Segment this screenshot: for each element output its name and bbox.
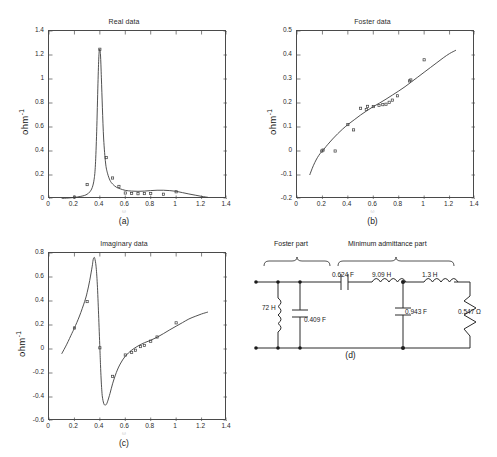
- y-tick-label: 0.4: [18, 146, 44, 153]
- y-tick-label: 0.6: [18, 122, 44, 129]
- y-tick-label: 1.2: [18, 50, 44, 57]
- y-tick-label: 0: [266, 146, 292, 153]
- plot-title-imaginary: Imaginary data: [0, 240, 248, 247]
- axes-foster: [296, 30, 474, 198]
- plot-area-imaginary: [49, 253, 227, 421]
- x-tick-label: 1.2: [189, 422, 213, 429]
- y-tick-label: -0.2: [18, 368, 44, 375]
- y-tick-label: 0.2: [266, 98, 292, 105]
- x-tick-label: 0.4: [87, 200, 111, 207]
- x-tick-label: 1.4: [462, 200, 486, 207]
- x-axis-label-real: ω: [0, 208, 248, 214]
- y-tick-label: 0.3: [266, 74, 292, 81]
- x-tick-label: 0.4: [335, 200, 359, 207]
- plot-title-foster: Foster data: [248, 18, 497, 25]
- x-tick-label: 1.4: [214, 200, 238, 207]
- panel-real-data: Real data ohm-1 00.20.40.60.811.21.4 00.…: [0, 10, 248, 225]
- inductor-72h-symbol: [278, 298, 281, 332]
- inductor-13h-symbol: [424, 279, 458, 283]
- y-tick-label: 0.8: [18, 98, 44, 105]
- y-tick-label: -0.1: [266, 170, 292, 177]
- panel-imaginary-data: Imaginary data ohm-1 -0.6-0.4-0.200.20.4…: [0, 232, 248, 447]
- x-axis-label-foster: ω: [248, 208, 497, 214]
- y-axis-label-exponent: -1: [266, 109, 273, 116]
- terminal-top: [254, 280, 258, 284]
- x-tick-label: 0: [36, 422, 60, 429]
- y-tick-label: 0.2: [18, 320, 44, 327]
- x-tick-label: 0.2: [61, 422, 85, 429]
- x-tick-label: 0.8: [386, 200, 410, 207]
- y-axis-label-exponent: -1: [18, 109, 25, 116]
- plot-area-foster: [297, 31, 475, 199]
- x-tick-label: 1.4: [214, 422, 238, 429]
- panel-circuit: Foster part Minimum admittance part 0.62…: [248, 232, 497, 447]
- caption-b: (b): [248, 216, 497, 226]
- y-tick-label: 1.4: [18, 26, 44, 33]
- x-tick-label: 0: [284, 200, 308, 207]
- x-tick-label: 0.2: [61, 200, 85, 207]
- y-tick-label: 1: [18, 74, 44, 81]
- x-tick-label: 0.2: [309, 200, 333, 207]
- y-tick-label: 0.6: [18, 272, 44, 279]
- x-tick-label: 1.2: [437, 200, 461, 207]
- axes-real: [48, 30, 226, 198]
- x-tick-label: 0.6: [360, 200, 384, 207]
- x-tick-label: 1: [163, 200, 187, 207]
- caption-d: (d): [226, 350, 475, 360]
- y-axis-label-exponent: -1: [15, 331, 22, 338]
- inductor-909h-symbol: [372, 279, 406, 283]
- x-axis-label-imaginary: ω: [0, 430, 248, 436]
- y-tick-label: 0.1: [266, 122, 292, 129]
- x-tick-label: 1.2: [189, 200, 213, 207]
- axes-imaginary: [48, 252, 226, 420]
- x-tick-label: 0.8: [138, 200, 162, 207]
- y-tick-label: 0.5: [266, 26, 292, 33]
- caption-c: (c): [0, 438, 248, 448]
- y-tick-label: -0.4: [18, 392, 44, 399]
- x-tick-label: 0.4: [87, 422, 111, 429]
- x-tick-label: 0.8: [138, 422, 162, 429]
- plot-title-real: Real data: [0, 18, 248, 25]
- brace-foster-part: [264, 257, 330, 266]
- x-tick-label: 0.6: [112, 422, 136, 429]
- y-tick-label: 0: [18, 344, 44, 351]
- brace-minimum-admittance-part: [338, 257, 454, 266]
- x-tick-label: 1: [411, 200, 435, 207]
- y-tick-label: 0.2: [18, 170, 44, 177]
- x-tick-label: 0.6: [112, 200, 136, 207]
- resistor-0547ohm-symbol: [464, 296, 476, 336]
- panel-foster-data: Foster data ohm-1 -0.2-0.100.10.20.30.40…: [248, 10, 497, 225]
- caption-a: (a): [0, 216, 248, 226]
- x-tick-label: 0: [36, 200, 60, 207]
- y-tick-label: 0.4: [266, 50, 292, 57]
- y-tick-label: 0.4: [18, 296, 44, 303]
- plot-area-real: [49, 31, 227, 199]
- y-tick-label: 0.8: [18, 248, 44, 255]
- x-tick-label: 1: [163, 422, 187, 429]
